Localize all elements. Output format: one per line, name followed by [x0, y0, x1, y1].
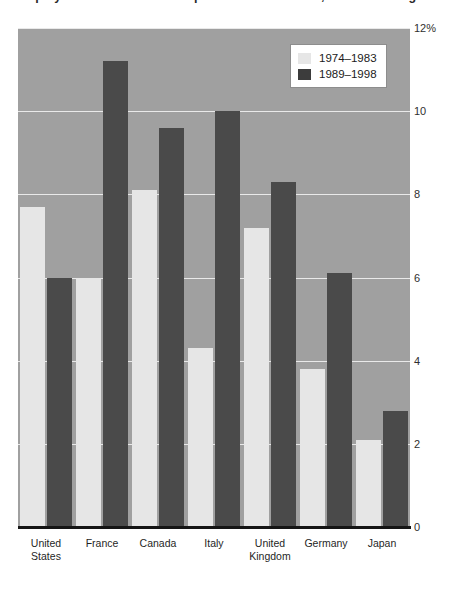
- legend-item: 1974–1983: [298, 50, 377, 66]
- y-axis-tick-label: 12%: [414, 23, 436, 34]
- x-axis-tick-label: Canada: [130, 537, 186, 550]
- y-axis-tick-label: 4: [414, 356, 420, 367]
- legend-swatch-icon: [298, 53, 311, 64]
- y-axis-tick-label: 2: [414, 439, 420, 450]
- bars-group: [18, 28, 410, 527]
- x-axis-tick-label: France: [74, 537, 130, 550]
- legend-label: 1989–1998: [319, 68, 377, 80]
- x-axis-tick-label: United States: [18, 537, 74, 562]
- bar: [132, 190, 157, 527]
- bar: [188, 348, 213, 527]
- legend-label: 1974–1983: [319, 52, 377, 64]
- x-axis-tick-label: United Kingdom: [242, 537, 298, 562]
- y-axis-tick-label: 10: [414, 106, 426, 117]
- y-axis-tick-label: 0: [414, 522, 420, 533]
- bar: [76, 278, 101, 528]
- x-axis-line: [18, 526, 411, 529]
- bar: [300, 369, 325, 527]
- bar: [356, 440, 381, 527]
- legend-swatch-icon: [298, 69, 311, 80]
- plot-area: [18, 28, 410, 527]
- legend-item: 1989–1998: [298, 66, 377, 82]
- bar: [215, 111, 240, 527]
- x-axis-tick-label: Germany: [298, 537, 354, 550]
- bar: [271, 182, 296, 527]
- bar: [20, 207, 45, 527]
- bar: [159, 128, 184, 527]
- y-axis-tick-label: 8: [414, 189, 420, 200]
- x-axis-tick-label: Japan: [354, 537, 410, 550]
- bar: [244, 228, 269, 527]
- y-axis-tick-label: 6: [414, 273, 420, 284]
- bar: [47, 278, 72, 528]
- chart-legend: 1974–19831989–1998: [290, 44, 387, 88]
- bar: [327, 273, 352, 527]
- x-axis-tick-label: Italy: [186, 537, 242, 550]
- chart-title: Unemployment Rate in the Group of Seven …: [0, 0, 450, 3]
- bar: [383, 411, 408, 527]
- bar: [103, 61, 128, 527]
